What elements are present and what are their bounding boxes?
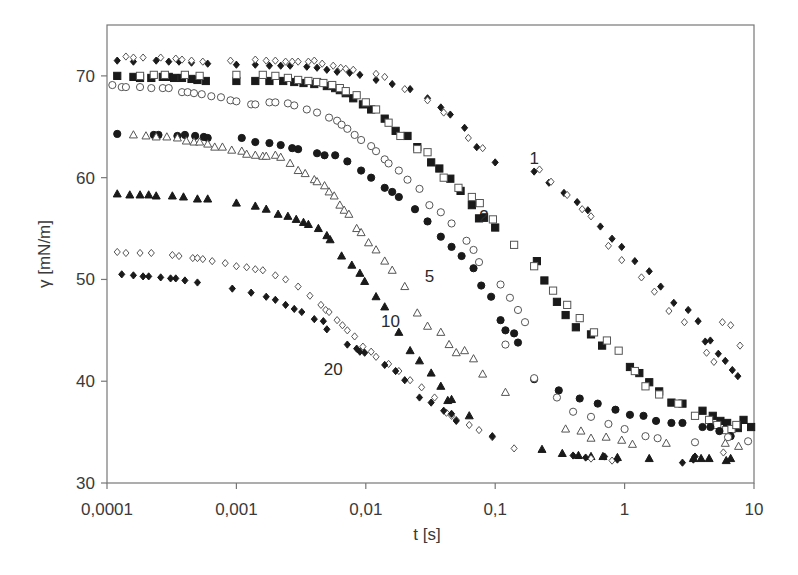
data-point	[272, 72, 279, 79]
data-point	[671, 299, 677, 306]
data-point	[514, 339, 521, 346]
data-point	[462, 124, 468, 131]
data-point	[553, 298, 560, 305]
data-point	[737, 342, 743, 349]
data-point	[489, 216, 496, 223]
data-point	[570, 408, 577, 415]
data-point	[200, 255, 206, 262]
data-point	[272, 296, 278, 303]
x-tick-label: 0,001	[215, 500, 258, 519]
data-point	[615, 347, 622, 354]
data-point	[506, 294, 513, 301]
series-triangle-open	[129, 131, 742, 450]
data-point	[169, 251, 175, 258]
data-point	[748, 423, 755, 430]
data-point	[314, 224, 322, 231]
data-point	[668, 419, 675, 426]
data-point	[603, 337, 610, 344]
data-point	[463, 237, 470, 244]
data-point	[252, 77, 259, 84]
data-point	[715, 350, 721, 357]
data-point	[675, 400, 682, 407]
data-point	[704, 349, 710, 356]
data-point	[502, 327, 509, 334]
chart: 3040506070 0,00010,0010,010,1110 1251020…	[0, 0, 798, 575]
data-point	[585, 207, 591, 214]
data-point	[605, 420, 612, 427]
data-point	[228, 146, 236, 153]
data-point	[344, 125, 351, 132]
data-point	[476, 200, 483, 207]
data-point	[549, 287, 556, 294]
data-point	[685, 306, 691, 313]
data-point	[577, 427, 585, 434]
data-point	[344, 341, 350, 348]
curve-label-5: 5	[425, 267, 434, 286]
data-point	[579, 206, 585, 213]
data-point	[640, 412, 647, 419]
data-point	[470, 355, 478, 362]
data-point	[609, 457, 615, 464]
data-point	[334, 317, 340, 324]
data-point	[727, 454, 735, 461]
data-point	[722, 357, 728, 364]
data-point	[424, 149, 431, 156]
data-point	[612, 406, 619, 413]
data-point	[478, 282, 485, 289]
data-point	[470, 246, 477, 253]
data-point	[468, 193, 475, 200]
data-point	[594, 400, 601, 407]
data-point	[531, 263, 538, 270]
data-point	[511, 445, 517, 452]
data-point	[705, 454, 713, 461]
data-point	[158, 274, 164, 281]
data-point	[654, 435, 661, 442]
data-point	[332, 152, 339, 159]
x-tick-label: 0,01	[349, 500, 382, 519]
data-point	[416, 185, 423, 192]
data-point	[458, 252, 465, 259]
data-point	[163, 133, 171, 140]
data-point	[198, 91, 205, 98]
data-point	[148, 85, 155, 92]
data-point	[479, 370, 487, 377]
data-point	[735, 373, 741, 380]
data-point	[266, 139, 273, 146]
data-point	[381, 184, 388, 191]
data-point	[406, 346, 414, 353]
data-point	[541, 277, 548, 284]
series-diamond-open	[123, 53, 743, 366]
data-point	[324, 66, 330, 73]
data-point	[587, 413, 594, 420]
data-point	[252, 138, 259, 145]
data-point	[365, 239, 373, 246]
data-point	[307, 292, 313, 299]
data-point	[137, 249, 143, 256]
data-point	[233, 71, 240, 78]
data-point	[368, 348, 374, 355]
data-series	[109, 53, 755, 466]
data-point	[311, 316, 317, 323]
series-diamond-open	[114, 248, 726, 464]
data-point	[455, 184, 462, 191]
series-diamond-filled	[119, 271, 698, 466]
data-point	[679, 459, 685, 466]
data-point	[324, 326, 330, 333]
data-point	[437, 233, 444, 240]
data-point	[244, 264, 250, 271]
data-point	[373, 70, 379, 77]
data-point	[318, 301, 324, 308]
data-point	[368, 174, 375, 181]
x-tick-label: 0,1	[483, 500, 507, 519]
data-point	[192, 132, 199, 139]
data-point	[511, 330, 518, 337]
data-point	[232, 199, 240, 206]
data-point	[416, 394, 422, 401]
series-triangle-filled	[113, 190, 734, 464]
data-point	[291, 305, 297, 312]
data-point	[181, 131, 188, 138]
data-point	[176, 252, 182, 259]
data-point	[440, 174, 447, 181]
data-point	[109, 81, 116, 88]
data-point	[319, 60, 325, 67]
